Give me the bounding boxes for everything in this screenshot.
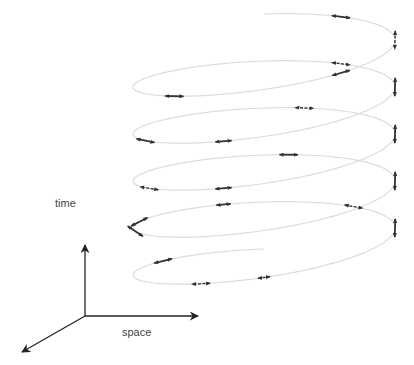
double-arrow-icon xyxy=(345,205,363,208)
double-arrow-icon xyxy=(128,226,143,236)
double-arrow-icon xyxy=(131,218,147,226)
depth-axis-arrow xyxy=(22,316,85,352)
double-arrow-icon xyxy=(137,139,155,143)
double-arrow-markers xyxy=(128,16,395,285)
double-arrow-icon xyxy=(217,204,231,205)
time-axis-label: time xyxy=(55,197,76,209)
double-arrow-icon xyxy=(258,277,270,279)
double-arrow-icon xyxy=(216,188,232,189)
helix-spacetime-diagram xyxy=(0,0,414,365)
double-arrow-icon xyxy=(216,141,232,142)
axes-frame xyxy=(22,245,198,352)
double-arrow-icon xyxy=(332,70,349,75)
double-arrow-icon xyxy=(332,63,350,65)
double-arrow-icon xyxy=(154,259,172,263)
helix-path xyxy=(133,14,395,285)
double-arrow-icon xyxy=(332,16,350,18)
helix-curve xyxy=(133,14,395,285)
double-arrow-icon xyxy=(140,187,158,190)
space-axis-label: space xyxy=(122,326,151,338)
